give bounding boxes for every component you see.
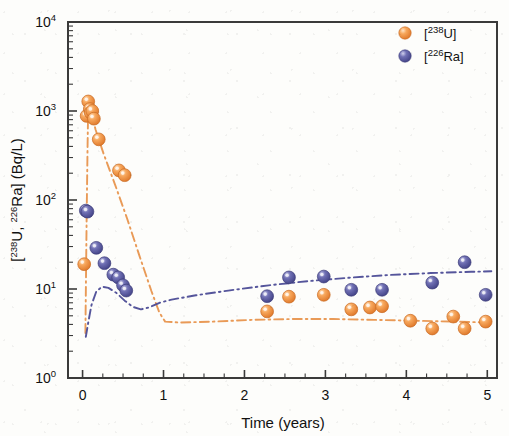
data-point-highlight	[95, 135, 99, 139]
chart-figure: 012345 100101102103104 Time (years) [238…	[0, 0, 509, 436]
data-point-highlight	[348, 286, 352, 290]
x-tick-label: 3	[322, 387, 330, 403]
figure-background	[0, 0, 509, 436]
x-tick-label: 4	[402, 387, 410, 403]
data-point-highlight	[80, 260, 84, 264]
data-point	[479, 288, 492, 301]
data-point	[81, 205, 94, 218]
legend-marker-ra226	[399, 50, 411, 62]
data-point	[283, 290, 296, 303]
data-point	[376, 300, 389, 313]
data-point	[261, 305, 274, 318]
data-point-highlight	[285, 293, 289, 297]
data-point	[98, 257, 111, 270]
data-point	[458, 322, 471, 335]
data-point	[283, 271, 296, 284]
data-point	[426, 276, 439, 289]
data-point	[479, 315, 492, 328]
data-point-highlight	[114, 274, 118, 278]
data-point	[317, 288, 330, 301]
data-point-highlight	[320, 291, 324, 295]
data-point-highlight	[348, 305, 352, 309]
x-tick-label: 5	[483, 387, 491, 403]
data-point-highlight	[461, 258, 465, 262]
data-point	[458, 256, 471, 269]
data-point-highlight	[482, 318, 486, 322]
data-point	[120, 284, 133, 297]
data-point	[90, 241, 103, 254]
data-point	[118, 169, 131, 182]
data-point-highlight	[90, 115, 94, 119]
x-tick-label: 0	[79, 387, 87, 403]
x-tick-label: 2	[241, 387, 249, 403]
data-point-highlight	[263, 292, 267, 296]
data-point-highlight	[366, 304, 370, 308]
data-point-highlight	[461, 325, 465, 329]
data-point-highlight	[429, 325, 433, 329]
data-point	[92, 133, 105, 146]
data-point-highlight	[378, 286, 382, 290]
activity-vs-time-chart: 012345 100101102103104 Time (years) [238…	[0, 0, 509, 436]
data-point-highlight	[115, 167, 119, 171]
x-tick-label: 1	[160, 387, 168, 403]
data-point-highlight	[93, 244, 97, 248]
data-point-highlight	[378, 302, 382, 306]
ylabel-sup-226: 226	[8, 207, 19, 223]
data-point-highlight	[119, 281, 123, 285]
data-point-highlight	[85, 98, 89, 102]
data-point	[345, 303, 358, 316]
x-axis-label: Time (years)	[241, 414, 325, 431]
data-point-highlight	[482, 291, 486, 295]
data-point-highlight	[450, 313, 454, 317]
data-point-highlight	[320, 273, 324, 277]
ylabel-sup-238: 238	[8, 242, 19, 258]
data-point	[376, 283, 389, 296]
ylabel-el-u: U,	[8, 223, 25, 242]
data-point-highlight	[263, 308, 267, 312]
data-point	[261, 290, 274, 303]
data-point	[364, 301, 377, 314]
data-point-highlight	[101, 259, 105, 263]
data-point	[78, 258, 91, 271]
data-point	[426, 322, 439, 335]
data-point-highlight	[123, 287, 127, 291]
data-point-highlight	[84, 208, 88, 212]
data-point	[88, 112, 101, 125]
data-point-highlight	[429, 279, 433, 283]
data-point-highlight	[89, 107, 93, 111]
data-point	[447, 310, 460, 323]
data-point	[345, 283, 358, 296]
data-point	[404, 314, 417, 327]
ylabel-el-ra: Ra] (Bq/L)	[8, 138, 25, 206]
data-point	[317, 270, 330, 283]
data-point-highlight	[285, 274, 289, 278]
legend-marker-u238	[399, 27, 411, 39]
data-point-highlight	[407, 317, 411, 321]
data-point-highlight	[121, 171, 125, 175]
